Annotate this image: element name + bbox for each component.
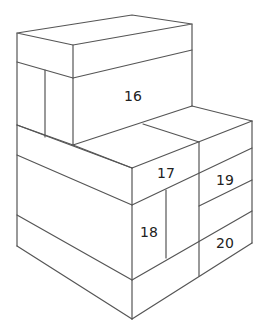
label-19: 19 bbox=[216, 172, 234, 188]
lower-top-front-right-edge bbox=[132, 121, 252, 168]
upper-block-top bbox=[17, 15, 192, 45]
lower-top-right-edge bbox=[192, 106, 252, 121]
label-16: 16 bbox=[124, 88, 142, 104]
label-20: 20 bbox=[216, 235, 234, 251]
boxes-diagram bbox=[0, 0, 268, 336]
right-band-upper bbox=[132, 148, 252, 205]
label-18: 18 bbox=[140, 224, 158, 240]
left-band-upper bbox=[17, 155, 132, 205]
base-left-edge bbox=[17, 246, 132, 319]
base-right-edge bbox=[132, 243, 252, 319]
left-band-lower bbox=[17, 215, 132, 280]
label-17: 17 bbox=[157, 165, 175, 181]
box-16-top-edge bbox=[73, 50, 192, 78]
lower-top-mid-edge bbox=[143, 124, 199, 142]
upper-bottom-edge bbox=[73, 106, 192, 145]
right-band-lower bbox=[132, 211, 252, 280]
